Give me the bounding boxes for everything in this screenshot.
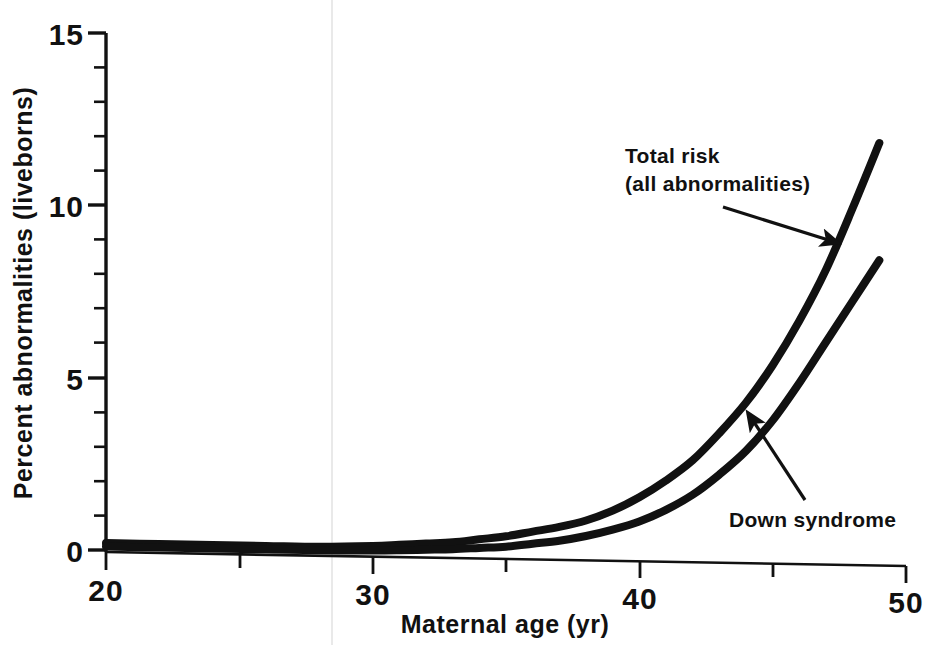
- y-tick-label-10: 10: [49, 190, 84, 223]
- y-tick-label-15: 15: [49, 18, 84, 51]
- x-tick-label-30: 30: [355, 578, 390, 611]
- x-axis-title: Maternal age (yr): [401, 610, 610, 638]
- chart-figure: 15 10 5 0 20 30 40 50 Maternal age: [0, 0, 929, 645]
- x-tick-label-20: 20: [88, 574, 123, 607]
- annotation-total-risk-line2: (all abnormalities): [625, 172, 810, 195]
- x-tick-label-50: 50: [888, 586, 923, 619]
- y-axis-title: Percent abnormalities (liveborns): [9, 87, 37, 499]
- y-tick-label-0: 0: [66, 535, 84, 568]
- annotation-total-risk-line1: Total risk: [625, 144, 720, 167]
- x-tick-label-40: 40: [622, 582, 657, 615]
- y-tick-label-5: 5: [66, 363, 84, 396]
- chart-canvas: 15 10 5 0 20 30 40 50 Maternal age: [0, 0, 929, 645]
- annotation-down-syndrome-label: Down syndrome: [729, 508, 896, 531]
